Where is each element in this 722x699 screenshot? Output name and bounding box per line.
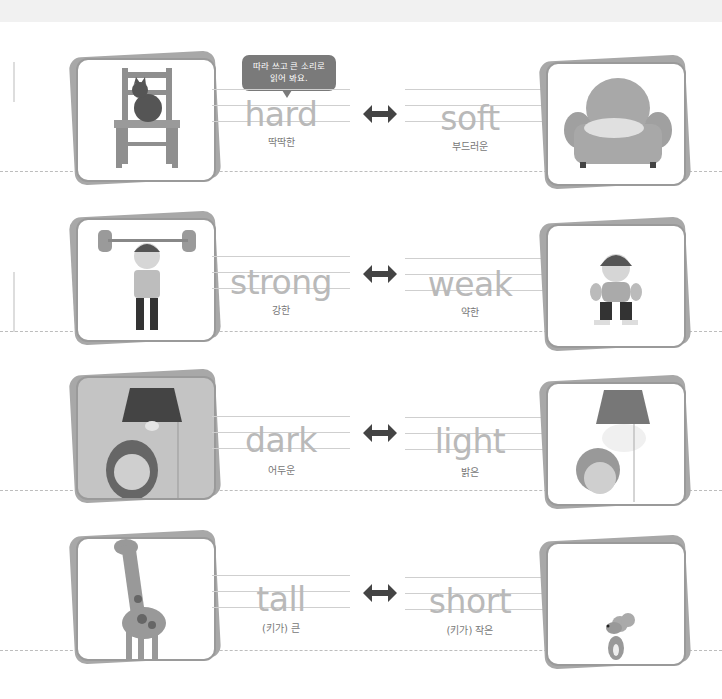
left-right-arrow-icon xyxy=(363,105,397,123)
woman-under-lit-lamp-image xyxy=(546,382,686,506)
margin-mark xyxy=(13,272,15,332)
instruction-line-1: 따라 쓰고 큰 소리로 xyxy=(242,60,336,72)
instruction-bubble: 따라 쓰고 큰 소리로 읽어 봐요. xyxy=(242,55,336,91)
image-card-light xyxy=(546,382,686,506)
armchair-with-sleeping-cat-image xyxy=(546,62,686,186)
meaning-weak: 약한 xyxy=(405,304,535,319)
giraffe-image xyxy=(76,537,216,661)
image-card-hard xyxy=(76,58,216,182)
top-header-band xyxy=(0,0,722,22)
meaning-hard: 딱딱한 xyxy=(212,134,350,149)
image-card-dark xyxy=(76,376,216,500)
meaning-tall: (키가) 큰 xyxy=(212,620,350,635)
word-tall: tall xyxy=(212,583,350,616)
boy-lifting-heavy-barbell-image xyxy=(76,218,216,342)
left-right-arrow-icon xyxy=(363,424,397,442)
image-card-short xyxy=(546,542,686,666)
word-light: light xyxy=(405,425,535,458)
girl-under-unlit-lamp-image xyxy=(76,376,216,500)
mouse-image xyxy=(546,542,686,666)
image-card-weak xyxy=(546,224,686,348)
zigzag-edge xyxy=(0,14,722,24)
word-dark: dark xyxy=(212,424,350,457)
instruction-line-2: 읽어 봐요. xyxy=(242,72,336,84)
word-short: short xyxy=(405,585,535,618)
word-weak: weak xyxy=(405,268,535,301)
chair-with-cat-image xyxy=(76,58,216,182)
margin-mark xyxy=(13,62,15,102)
left-right-arrow-icon xyxy=(363,584,397,602)
boy-squatting-with-small-barbell-image xyxy=(546,224,686,348)
word-soft: soft xyxy=(405,102,535,135)
meaning-dark: 어두운 xyxy=(212,462,350,477)
meaning-soft: 부드러운 xyxy=(405,138,535,153)
meaning-strong: 강한 xyxy=(212,302,350,317)
meaning-short: (키가) 작은 xyxy=(405,622,535,637)
left-right-arrow-icon xyxy=(363,265,397,283)
word-strong: strong xyxy=(212,266,350,299)
image-card-tall xyxy=(76,537,216,661)
word-hard: hard xyxy=(212,98,350,131)
meaning-light: 밝은 xyxy=(405,464,535,479)
image-card-soft xyxy=(546,62,686,186)
image-card-strong xyxy=(76,218,216,342)
